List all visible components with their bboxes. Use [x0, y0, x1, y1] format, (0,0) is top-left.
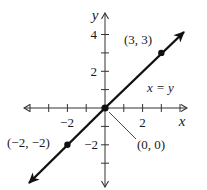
y-axis [101, 13, 109, 187]
y-axis-label: y [90, 7, 99, 23]
point-label-3-3: (3, 3) [124, 32, 152, 47]
x-tick-label-2: 2 [139, 115, 146, 130]
coordinate-plane: −2 2 4 2 −2 x y (−2, −2) (0, 0) (3, 3) x… [0, 0, 207, 190]
y-tick-label-4: 4 [91, 27, 98, 42]
y-tick-label-neg2: −2 [84, 137, 98, 152]
point-label-origin: (0, 0) [137, 137, 165, 152]
point-neg2-neg2 [64, 142, 70, 148]
x-tick-label-neg2: −2 [60, 115, 74, 130]
point-label-neg2-neg2: (−2, −2) [7, 135, 50, 150]
equation-label: x = y [146, 80, 174, 95]
origin-leader-line [109, 112, 136, 139]
point-3-3 [158, 50, 164, 56]
y-tick-label-2: 2 [91, 64, 98, 79]
x-axis-label: x [178, 113, 186, 129]
point-origin [101, 104, 108, 111]
